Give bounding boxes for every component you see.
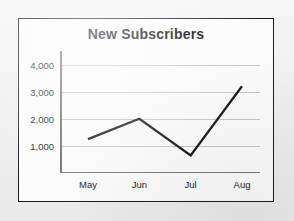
x-axis-tick-label: Jun — [132, 179, 147, 190]
chart-title: New Subscribers — [19, 26, 273, 42]
y-axis-tick-label: 2,000 — [30, 113, 54, 124]
series-line — [88, 86, 242, 155]
x-axis-tick-label: Jul — [185, 179, 197, 190]
plot-area: 1,0002,0003,0004,000 MayJunJulAug — [60, 51, 260, 173]
line-series — [60, 51, 260, 173]
chart-page: New Subscribers 1,0002,0003,0004,000 May… — [0, 0, 294, 221]
y-axis-tick-label: 1,000 — [30, 140, 54, 151]
x-axis-tick-label: May — [79, 179, 97, 190]
chart-frame: New Subscribers 1,0002,0003,0004,000 May… — [18, 18, 274, 202]
x-axis-tick-label: Aug — [234, 179, 251, 190]
y-axis-tick-label: 4,000 — [30, 59, 54, 70]
y-axis-tick-label: 3,000 — [30, 86, 54, 97]
